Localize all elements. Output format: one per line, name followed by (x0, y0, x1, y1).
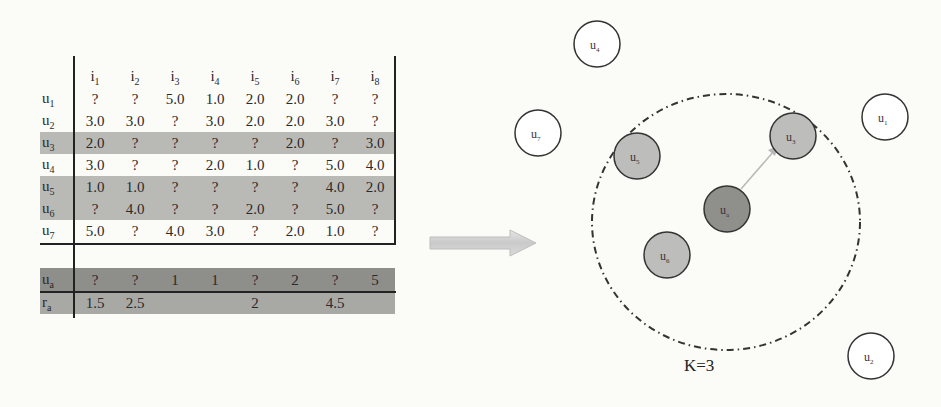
node-u1: u1 (862, 94, 908, 140)
k-value-label: K=3 (684, 356, 714, 376)
node-u2: u2 (848, 333, 894, 379)
node-u3-neighbor: u3 (770, 113, 816, 159)
node-u6-neighbor: u6 (644, 232, 690, 278)
node-u7: u7 (515, 110, 561, 156)
node-ua-target: ua (704, 186, 750, 232)
node-u4: u4 (574, 21, 620, 67)
knn-diagram: u4 u7 u1 u2 u5 u3 u6 ua (0, 0, 941, 407)
node-u5-neighbor: u5 (614, 133, 660, 179)
similarity-arrow-line (741, 151, 774, 189)
